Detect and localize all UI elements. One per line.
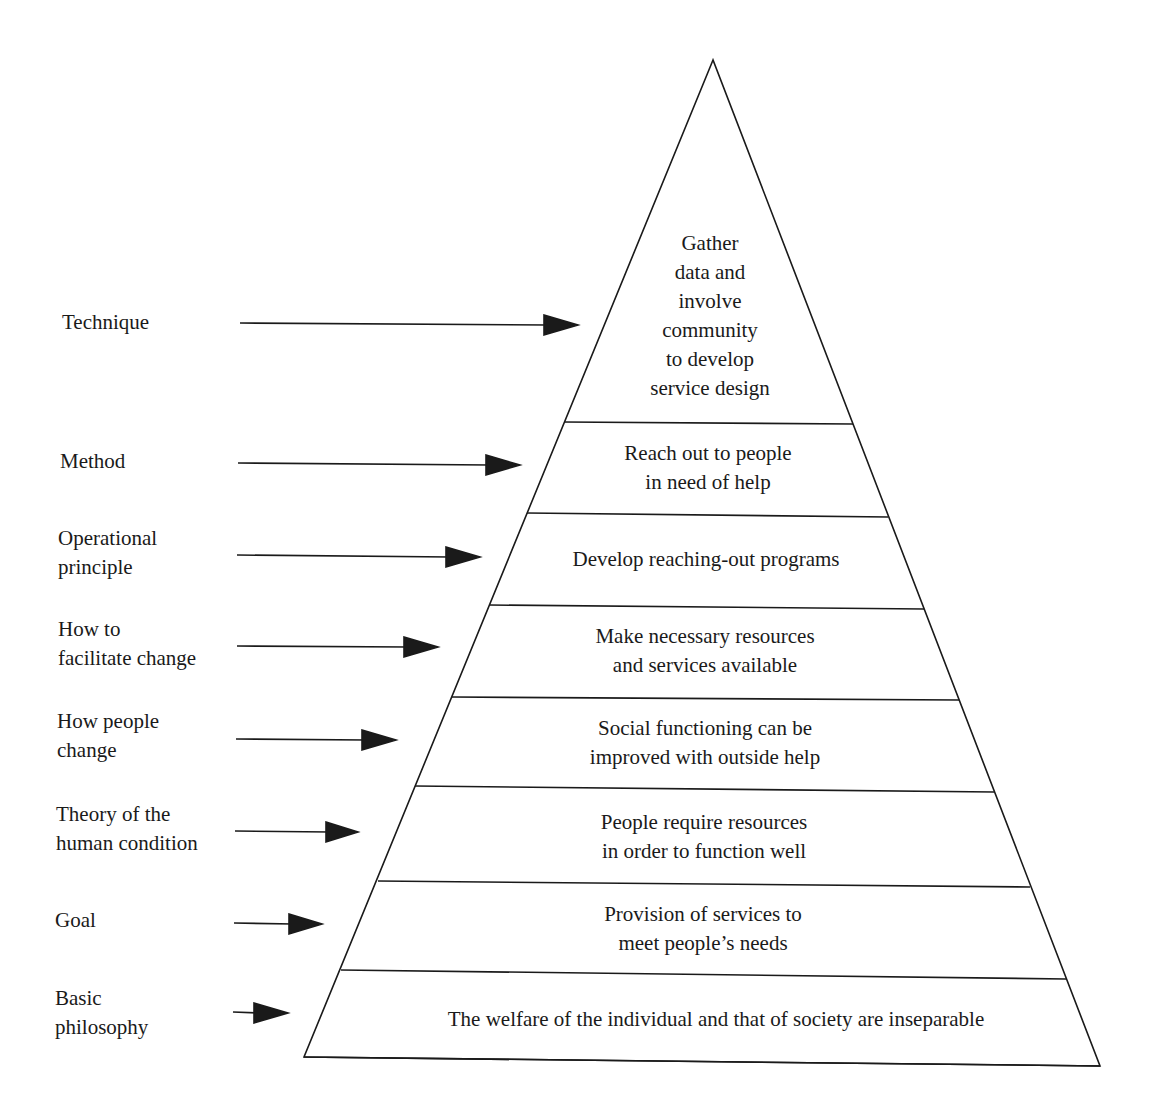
label-line: Operational [58, 524, 157, 553]
layer-line: meet people’s needs [604, 929, 802, 958]
layer-line: in order to function well [601, 837, 807, 866]
label-line: principle [58, 553, 157, 582]
layer-facilitate-change: Make necessary resources and services av… [595, 622, 814, 680]
label-technique: Technique [62, 308, 149, 337]
label-line: facilitate change [58, 644, 196, 673]
arrow-method [238, 455, 520, 475]
label-line: Method [60, 447, 125, 476]
label-line: philosophy [55, 1013, 148, 1042]
arrow-human-condition [235, 822, 358, 842]
layer-line: improved with outside help [590, 743, 820, 772]
layer-goal: Provision of services to meet people’s n… [604, 900, 802, 958]
layer-line: involve [650, 287, 770, 316]
label-facilitate-change: How to facilitate change [58, 615, 196, 673]
label-line: Technique [62, 308, 149, 337]
arrow-facilitate-change [237, 637, 438, 657]
layer-human-condition: People require resources in order to fun… [601, 808, 807, 866]
arrow-people-change [236, 730, 396, 750]
layer-line: Make necessary resources [595, 622, 814, 651]
label-line: human condition [56, 829, 198, 858]
layer-line: Provision of services to [604, 900, 802, 929]
label-line: change [57, 736, 159, 765]
label-line: Basic [55, 984, 148, 1013]
layer-people-change: Social functioning can be improved with … [590, 714, 820, 772]
label-method: Method [60, 447, 125, 476]
layer-technique: Gather data and involve community to dev… [650, 229, 770, 403]
label-human-condition: Theory of the human condition [56, 800, 198, 858]
layer-line: service design [650, 374, 770, 403]
label-line: How people [57, 707, 159, 736]
layer-line: community [650, 316, 770, 345]
arrows [233, 315, 578, 1023]
layer-line: Gather [650, 229, 770, 258]
layer-line: data and [650, 258, 770, 287]
layer-operational-principle: Develop reaching-out programs [572, 545, 839, 574]
label-goal: Goal [55, 906, 96, 935]
label-people-change: How people change [57, 707, 159, 765]
arrow-technique [240, 315, 578, 335]
layer-line: Reach out to people [624, 439, 791, 468]
layer-line: to develop [650, 345, 770, 374]
layer-line: Social functioning can be [590, 714, 820, 743]
layer-line: Develop reaching-out programs [572, 545, 839, 574]
layer-basic-philosophy: The welfare of the individual and that o… [448, 1005, 984, 1034]
layer-line: The welfare of the individual and that o… [448, 1005, 984, 1034]
layer-line: People require resources [601, 808, 807, 837]
layer-method: Reach out to people in need of help [624, 439, 791, 497]
label-line: How to [58, 615, 196, 644]
layer-line: and services available [595, 651, 814, 680]
arrow-basic-philosophy [233, 1003, 288, 1023]
label-line: Goal [55, 906, 96, 935]
arrow-operational-principle [237, 547, 480, 567]
label-operational-principle: Operational principle [58, 524, 157, 582]
label-basic-philosophy: Basic philosophy [55, 984, 148, 1042]
label-line: Theory of the [56, 800, 198, 829]
arrow-goal [234, 914, 322, 934]
layer-line: in need of help [624, 468, 791, 497]
